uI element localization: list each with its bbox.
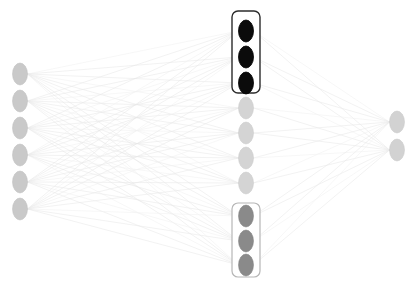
node-group-output-layer	[390, 111, 405, 161]
network-node-in-3[interactable]	[13, 117, 28, 139]
network-edge	[254, 108, 390, 122]
network-edge	[28, 83, 239, 128]
network-edge	[28, 57, 239, 182]
network-edge	[28, 128, 239, 265]
network-node-in-5[interactable]	[13, 171, 28, 193]
network-edge	[254, 133, 390, 150]
network-node-in-6[interactable]	[13, 198, 28, 220]
network-edge	[28, 128, 239, 216]
network-edge	[28, 209, 239, 241]
network-edge	[254, 150, 390, 216]
network-edge	[254, 150, 390, 241]
network-edge	[28, 74, 239, 158]
network-edge	[254, 122, 390, 265]
network-node-in-1[interactable]	[13, 63, 28, 85]
network-node-h-10[interactable]	[239, 254, 254, 276]
network-edge	[254, 57, 390, 122]
network-edge	[28, 108, 239, 155]
network-edge	[28, 83, 239, 101]
network-node-h-7[interactable]	[239, 172, 254, 194]
network-node-out-2[interactable]	[390, 139, 405, 161]
network-edge	[254, 150, 390, 158]
network-edge	[254, 122, 390, 216]
network-node-h-1[interactable]	[239, 20, 254, 42]
network-node-h-5[interactable]	[239, 122, 254, 144]
network-edge	[28, 31, 239, 182]
network-edge	[28, 101, 239, 158]
network-node-h-6[interactable]	[239, 147, 254, 169]
network-edge	[254, 31, 390, 122]
network-edge	[254, 150, 390, 183]
network-node-h-2[interactable]	[239, 46, 254, 68]
network-edge	[28, 108, 239, 209]
neural-network-diagram	[0, 0, 410, 289]
network-node-h-9[interactable]	[239, 230, 254, 252]
edge-group-input-to-hidden	[28, 31, 239, 265]
network-edge	[254, 31, 390, 150]
network-edge	[254, 83, 390, 122]
network-edge	[28, 155, 239, 216]
network-node-h-8[interactable]	[239, 205, 254, 227]
network-edge	[28, 155, 239, 241]
network-edge	[28, 182, 239, 241]
network-edge	[28, 74, 239, 83]
network-edge	[28, 31, 239, 101]
network-node-out-1[interactable]	[390, 111, 405, 133]
network-edge	[28, 158, 239, 209]
network-node-h-3[interactable]	[239, 72, 254, 94]
network-canvas	[0, 0, 410, 289]
network-node-in-2[interactable]	[13, 90, 28, 112]
network-edge	[254, 150, 390, 265]
network-edge	[28, 209, 239, 265]
node-group-hidden-layer	[239, 20, 254, 276]
network-edge	[28, 158, 239, 182]
edge-group-hidden-to-output	[254, 31, 390, 265]
network-edge	[28, 74, 239, 133]
network-node-h-4[interactable]	[239, 97, 254, 119]
node-group-input-layer	[13, 63, 28, 220]
network-node-in-4[interactable]	[13, 144, 28, 166]
